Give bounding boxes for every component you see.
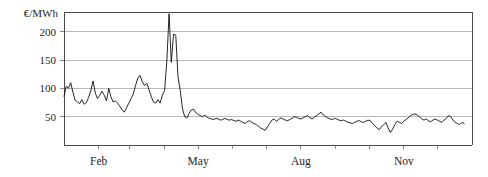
x-tick-label: Feb [90,155,108,167]
x-tick-label: Nov [394,155,414,167]
price-chart: 50100150200 FebMayAugNov €/MWh [0,0,488,177]
chart-canvas: 50100150200 FebMayAugNov €/MWh [0,0,488,177]
axis-tickmarks [60,32,437,149]
x-tick-label: May [188,155,209,168]
x-tick-label: Aug [291,155,311,168]
y-axis-tick-labels: 50100150200 [40,26,57,123]
y-tick-label: 150 [40,54,57,66]
y-tick-label: 100 [40,82,57,94]
gridlines [64,32,472,117]
y-tick-label: 50 [45,111,57,123]
y-axis-title: €/MWh [24,7,59,19]
x-axis-tick-labels: FebMayAugNov [90,155,414,168]
y-tick-label: 200 [40,26,57,38]
